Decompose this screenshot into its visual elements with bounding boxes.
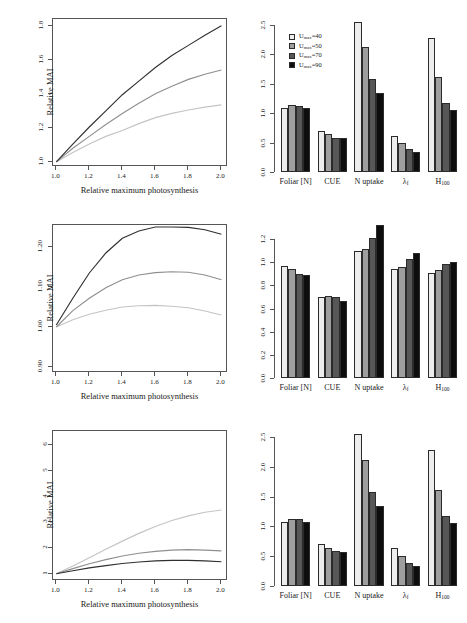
x-tickmark bbox=[88, 372, 89, 376]
y-tickmark bbox=[270, 113, 274, 114]
x-tickmark bbox=[154, 166, 155, 170]
bar-bar-middle-2-0 bbox=[354, 251, 361, 378]
plot-frame-line-top bbox=[52, 18, 227, 166]
bar-bar-top-4-0 bbox=[428, 38, 435, 172]
y-tickmark bbox=[48, 246, 52, 247]
y-tickmark bbox=[48, 161, 52, 162]
legend-item-label: Umax=40 bbox=[299, 32, 322, 40]
bar-bar-middle-1-3 bbox=[340, 301, 347, 378]
x-tickmark bbox=[88, 166, 89, 170]
bar-bar-top-3-1 bbox=[398, 143, 405, 172]
bar-bar-top-0-1 bbox=[288, 105, 295, 172]
line-series-low bbox=[56, 510, 221, 574]
x-axis-label: Relative maximum photosynthesis bbox=[52, 599, 227, 609]
bar-bar-middle-4-2 bbox=[442, 264, 449, 378]
line-series-low bbox=[56, 105, 221, 162]
category-label: H100 bbox=[415, 177, 467, 186]
x-tickmark bbox=[55, 580, 56, 584]
bar-bar-bottom-0-0 bbox=[281, 522, 288, 586]
bar-bar-bottom-1-2 bbox=[332, 551, 339, 586]
line-series-low bbox=[56, 305, 221, 327]
legend-swatch-icon bbox=[289, 34, 295, 40]
y-tickmark bbox=[270, 54, 274, 55]
y-tickmark bbox=[270, 332, 274, 333]
bar-bar-top-4-1 bbox=[435, 77, 442, 172]
y-tickmark bbox=[270, 239, 274, 240]
y-tickmark bbox=[270, 526, 274, 527]
bar-bar-bottom-2-3 bbox=[376, 506, 383, 586]
line-series-layer bbox=[53, 431, 228, 581]
x-tickmark bbox=[88, 580, 89, 584]
x-tick-label: 2.0 bbox=[206, 586, 234, 594]
bar-bar-middle-4-0 bbox=[428, 273, 435, 378]
bar-bar-bottom-1-1 bbox=[325, 548, 332, 586]
x-tickmark bbox=[55, 166, 56, 170]
y-tick-label: 1.0 bbox=[249, 520, 268, 532]
legend-item-label: Umax=50 bbox=[299, 42, 322, 50]
bar-bar-top-1-1 bbox=[325, 134, 332, 172]
y-tick-label: 1.5 bbox=[249, 491, 268, 503]
panel-line-bottom: 1234561.01.21.41.61.82.0Relative MAIRela… bbox=[0, 418, 235, 620]
bar-bar-bottom-2-2 bbox=[369, 492, 376, 586]
x-tick-label: 1.6 bbox=[140, 378, 168, 386]
bar-bar-bottom-2-1 bbox=[362, 460, 369, 586]
y-tickmark bbox=[270, 586, 274, 587]
y-tick-label: 2.5 bbox=[249, 431, 268, 443]
bar-bar-top-3-0 bbox=[391, 136, 398, 172]
y-tick-label: 6 bbox=[28, 438, 46, 450]
bar-bar-middle-3-2 bbox=[406, 259, 413, 378]
bar-bar-bottom-4-3 bbox=[450, 523, 457, 586]
y-tick-label: 0.2 bbox=[249, 349, 268, 361]
bar-bar-top-2-1 bbox=[362, 47, 369, 172]
y-tickmark bbox=[270, 497, 274, 498]
bar-bar-middle-0-3 bbox=[303, 275, 310, 378]
y-tickmark bbox=[270, 262, 274, 263]
bar-bar-top-0-3 bbox=[303, 108, 310, 172]
plot-frame-line-middle bbox=[52, 224, 227, 372]
x-tickmark bbox=[187, 166, 188, 170]
y-axis-label: Relative MAI bbox=[43, 248, 57, 348]
y-tick-label: 1.0 bbox=[249, 107, 268, 119]
x-tickmark bbox=[121, 166, 122, 170]
figure-root: 1.01.21.41.61.81.01.21.41.61.82.0Relativ… bbox=[0, 0, 467, 623]
bar-bar-middle-1-1 bbox=[325, 296, 332, 378]
bar-bar-top-1-3 bbox=[340, 138, 347, 172]
x-tickmark bbox=[187, 372, 188, 376]
baseline-axis bbox=[281, 586, 457, 587]
y-tickmark bbox=[270, 143, 274, 144]
bar-bar-top-3-3 bbox=[413, 152, 420, 172]
category-label: H100 bbox=[415, 383, 467, 392]
y-tick-label: 0.5 bbox=[249, 137, 268, 149]
y-tickmark bbox=[270, 355, 274, 356]
y-axis-line bbox=[274, 437, 275, 586]
bar-bar-bottom-3-0 bbox=[391, 548, 398, 586]
y-tickmark bbox=[270, 437, 274, 438]
category-label: H100 bbox=[415, 591, 467, 600]
x-tickmark bbox=[55, 372, 56, 376]
bar-bar-middle-0-2 bbox=[296, 274, 303, 378]
line-series-layer bbox=[53, 225, 228, 373]
y-tickmark bbox=[270, 285, 274, 286]
x-tick-label: 1.4 bbox=[107, 586, 135, 594]
baseline-axis bbox=[281, 378, 457, 379]
bar-bar-bottom-3-2 bbox=[406, 563, 413, 586]
bar-bar-bottom-0-3 bbox=[303, 522, 310, 586]
y-tick-label: 1.2 bbox=[249, 233, 268, 245]
y-tickmark bbox=[270, 556, 274, 557]
bar-bar-middle-2-3 bbox=[376, 225, 383, 378]
bar-bar-top-0-2 bbox=[296, 106, 303, 172]
line-series-high bbox=[56, 26, 221, 162]
bar-bar-top-1-2 bbox=[332, 138, 339, 172]
x-tick-label: 1.0 bbox=[41, 378, 69, 386]
plot-frame-line-bottom bbox=[52, 430, 227, 580]
bar-bar-bottom-4-1 bbox=[435, 490, 442, 586]
y-tickmark bbox=[270, 467, 274, 468]
bar-bar-top-4-2 bbox=[442, 103, 449, 172]
bar-bar-middle-1-2 bbox=[332, 297, 339, 378]
x-tick-label: 1.6 bbox=[140, 172, 168, 180]
y-tick-label: 2.0 bbox=[249, 48, 268, 60]
y-axis-line bbox=[274, 25, 275, 172]
y-tick-label: 1 bbox=[28, 567, 46, 579]
panel-bar-top: 0.00.51.01.52.02.5Foliar [N]CUEN uptakeλ… bbox=[235, 6, 467, 206]
y-tick-label: 0.5 bbox=[249, 550, 268, 562]
